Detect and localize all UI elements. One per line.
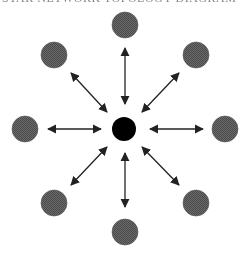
node-left (12, 116, 38, 142)
node-top-right (183, 42, 209, 68)
arrow-top-right-icon (142, 73, 179, 112)
node-top-left (41, 42, 67, 68)
node-right (212, 116, 238, 142)
hub-node (112, 117, 136, 141)
node-bottom-right (183, 190, 209, 216)
node-bottom-left (41, 190, 67, 216)
star-network-diagram (0, 0, 250, 267)
node-bottom (112, 219, 138, 245)
arrow-top-left-icon (71, 73, 107, 112)
arrow-bottom-right-icon (142, 147, 179, 185)
node-top (112, 12, 138, 38)
arrow-bottom-left-icon (71, 147, 107, 185)
